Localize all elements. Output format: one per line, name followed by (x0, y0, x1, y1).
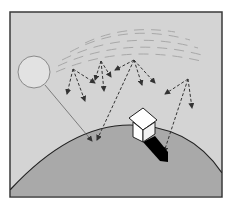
diagram-canvas (0, 0, 231, 207)
sun-icon (18, 56, 50, 88)
